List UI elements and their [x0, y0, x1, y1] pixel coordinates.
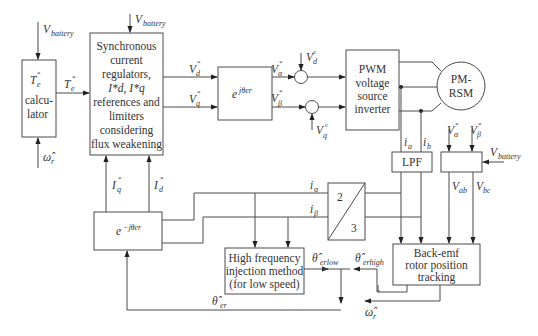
- theta-high-label: θ̂ erhigh: [355, 252, 384, 267]
- vab-label: V ab: [452, 180, 467, 195]
- torque-calculator-block: T e * calcu- lator: [22, 60, 56, 137]
- svg-text:*: *: [118, 175, 122, 183]
- clarke-transform-block: 2 3: [328, 183, 365, 240]
- svg-text:flux weakening: flux weakening: [91, 138, 162, 151]
- svg-text:r: r: [373, 312, 377, 321]
- i-beta-wire: [162, 217, 328, 243]
- svg-text:inverter: inverter: [355, 103, 391, 115]
- vbc-label: V bc: [476, 180, 491, 195]
- theta-high-stub: [378, 285, 380, 291]
- i-alpha-label: i α: [310, 179, 319, 194]
- vbattery-label-1: V battery: [43, 23, 74, 38]
- forward-rotation-block: e jθer: [218, 67, 272, 120]
- sum-node-beta: [306, 101, 319, 114]
- svg-text:*: *: [160, 175, 164, 183]
- svg-text:considering: considering: [100, 124, 154, 137]
- svg-text:RSM: RSM: [449, 87, 473, 99]
- svg-text:I*d, I*q: I*d, I*q: [107, 82, 145, 95]
- svg-text:High frequency: High frequency: [229, 252, 301, 265]
- svg-text:β: β: [476, 130, 481, 139]
- sum-node-alpha: [295, 71, 308, 84]
- svg-text:b: b: [427, 142, 431, 151]
- inverse-rotation-block: e −jθer: [94, 212, 162, 250]
- svg-text:*: *: [72, 74, 76, 82]
- vd-ref-label: V d *: [189, 59, 201, 78]
- svg-text:tracking: tracking: [418, 271, 456, 284]
- svg-text:ab: ab: [459, 186, 467, 195]
- svg-text:LPF: LPF: [402, 156, 422, 168]
- svg-text:d: d: [159, 185, 164, 194]
- svg-text:c: c: [313, 48, 316, 56]
- svg-text:e: e: [71, 84, 75, 93]
- omega-r-input-label: ω̂ r: [43, 151, 56, 166]
- theta-er-label: θ̂ er: [212, 295, 228, 310]
- svg-text:β: β: [277, 99, 282, 108]
- ib-label: i b: [423, 136, 431, 151]
- svg-text:ω̂: ω̂: [365, 306, 378, 318]
- svg-text:*: *: [37, 70, 41, 78]
- svg-text:2: 2: [337, 191, 343, 203]
- svg-text:*: *: [279, 59, 283, 67]
- svg-text:references and: references and: [93, 96, 160, 108]
- vd-comp-label: V d c: [306, 48, 318, 66]
- voltage-calc-block: [441, 152, 482, 172]
- svg-text:regulators,: regulators,: [102, 68, 151, 81]
- svg-text:r: r: [51, 157, 55, 166]
- svg-text:i: i: [310, 179, 313, 191]
- svg-text:erhigh: erhigh: [363, 258, 384, 267]
- svg-text:3: 3: [351, 222, 357, 234]
- svg-text:q: q: [323, 131, 327, 140]
- vbeta-ref-label: V β *: [271, 88, 283, 108]
- svg-text:PM-: PM-: [451, 73, 472, 85]
- torque-calc-label-3: lator: [27, 108, 48, 120]
- svg-text:source: source: [357, 90, 387, 102]
- svg-text:current: current: [110, 54, 143, 66]
- vbattery-label-2: V battery: [135, 13, 166, 28]
- svg-text:Back-emf: Back-emf: [414, 247, 460, 259]
- phase-wire-a: [399, 62, 441, 71]
- svg-text:q: q: [196, 99, 200, 108]
- svg-text:i: i: [423, 136, 426, 148]
- lpf-block: LPF: [392, 152, 432, 172]
- vq-ref-label: V q *: [189, 89, 201, 108]
- svg-text:*: *: [279, 88, 283, 96]
- svg-text:voltage: voltage: [356, 77, 390, 90]
- svg-text:α: α: [454, 130, 459, 139]
- vbattery-label-3: V battery: [490, 146, 521, 161]
- svg-text:e: e: [37, 80, 41, 89]
- svg-text:e: e: [232, 88, 237, 100]
- iq-label: I q *: [111, 175, 122, 194]
- svg-text:injection method: injection method: [226, 265, 304, 278]
- svg-text:*: *: [478, 121, 482, 129]
- svg-text:ω̂: ω̂: [43, 151, 56, 163]
- i-alpha-wire: [162, 193, 328, 220]
- svg-text:battery: battery: [498, 152, 521, 161]
- omega-r-output-label: ω̂ r: [365, 306, 378, 321]
- svg-text:q: q: [117, 185, 121, 194]
- svg-text:limiters: limiters: [109, 110, 145, 122]
- svg-text:er: er: [220, 301, 228, 310]
- i-beta-label: i β: [310, 203, 318, 218]
- svg-text:battery: battery: [143, 19, 166, 28]
- current-regulators-block: Synchronous current regulators, I*d, I*q…: [90, 33, 163, 155]
- theta-low-label: θ̂ erlow: [312, 252, 339, 267]
- svg-text:a: a: [408, 142, 412, 151]
- svg-text:Synchronous: Synchronous: [96, 40, 157, 53]
- svg-text:i: i: [310, 203, 313, 215]
- id-label: I d *: [153, 175, 164, 194]
- svg-text:d: d: [313, 57, 318, 66]
- vq-comp-label: V q c: [316, 121, 328, 140]
- torque-calc-label-2: calcu-: [25, 94, 53, 106]
- pwm-inverter-block: PWM voltage source inverter: [346, 50, 399, 130]
- svg-text:PWM: PWM: [359, 63, 386, 75]
- control-diagram: T e * calcu- lator V battery ω̂ r T e * …: [0, 0, 538, 336]
- svg-text:e: e: [116, 225, 121, 237]
- svg-text:−jθer: −jθer: [123, 223, 142, 232]
- svg-text:β: β: [313, 209, 318, 218]
- svg-text:*: *: [455, 121, 459, 129]
- svg-text:erlow: erlow: [320, 258, 339, 267]
- svg-text:jθer: jθer: [238, 86, 253, 95]
- svg-text:i: i: [404, 136, 407, 148]
- svg-text:(for low speed): (for low speed): [229, 278, 299, 291]
- ia-label: i a: [404, 136, 412, 151]
